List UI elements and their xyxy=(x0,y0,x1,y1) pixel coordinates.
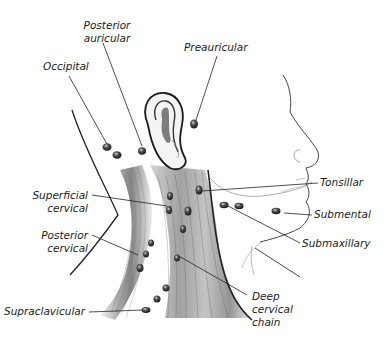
mouth-line xyxy=(296,178,305,180)
label-line: Tonsillar xyxy=(320,176,363,189)
node-deep-cervical-2 xyxy=(180,225,186,233)
label-line: auricular xyxy=(80,32,134,45)
label-line: Submaxillary xyxy=(302,237,371,250)
node-posterior-cervical-3 xyxy=(137,264,144,272)
node-deep-cervical-4 xyxy=(163,285,170,292)
node-supraclavicular xyxy=(142,307,151,313)
node-posterior-cervical-2 xyxy=(143,251,149,258)
label-line: cervical xyxy=(20,242,88,255)
label-posterior-cervical: Posterior cervical xyxy=(20,229,88,255)
node-superficial-cervical-1 xyxy=(167,192,173,200)
face-profile xyxy=(260,75,319,242)
node-submaxillary-2 xyxy=(235,203,244,209)
node-occipital-1 xyxy=(103,143,112,151)
throat-line-3 xyxy=(255,248,300,277)
node-deep-cervical-3 xyxy=(174,255,180,262)
node-submaxillary-1 xyxy=(220,202,229,208)
lip-line xyxy=(282,186,306,192)
label-superficial-cervical: Superficial cervical xyxy=(20,189,88,215)
label-submaxillary: Submaxillary xyxy=(302,237,371,250)
label-line: Posterior xyxy=(20,229,88,242)
node-posterior-cervical-1 xyxy=(148,240,154,247)
node-occipital-2 xyxy=(113,151,122,159)
label-supraclavicular: Supraclavicular xyxy=(4,305,85,318)
leader-preauricular xyxy=(196,56,217,120)
ear xyxy=(145,93,185,169)
node-preauricular xyxy=(190,120,198,129)
label-deep-cervical-chain: Deep cervical chain xyxy=(252,290,293,329)
label-line: Supraclavicular xyxy=(4,305,85,318)
node-posterior-auricular xyxy=(138,147,146,155)
label-submental: Submental xyxy=(314,208,371,221)
label-line: Superficial xyxy=(20,189,88,202)
node-submental xyxy=(272,208,281,214)
node-deep-cervical-5 xyxy=(154,296,161,303)
leader-submaxillary xyxy=(228,206,300,243)
node-tonsillar xyxy=(196,186,203,195)
label-preauricular: Preauricular xyxy=(184,41,248,54)
label-tonsillar: Tonsillar xyxy=(320,176,363,189)
label-line: Submental xyxy=(314,208,371,221)
label-line: Deep xyxy=(252,290,293,303)
node-deep-cervical-1 xyxy=(185,207,192,216)
leader-submental xyxy=(284,213,312,215)
label-line: Preauricular xyxy=(184,41,248,54)
label-occipital: Occipital xyxy=(43,60,89,73)
leader-occipital xyxy=(69,76,108,146)
label-posterior-auricular: Posterior auricular xyxy=(80,19,134,45)
label-line: Occipital xyxy=(43,60,89,73)
label-line: Posterior xyxy=(80,19,134,32)
nostril xyxy=(294,150,300,162)
leader-posterior-auricular xyxy=(103,43,142,146)
throat-line-2 xyxy=(251,246,254,275)
label-line: cervical xyxy=(252,303,293,316)
label-line: chain xyxy=(252,316,293,329)
label-line: cervical xyxy=(20,202,88,215)
node-superficial-cervical-2 xyxy=(166,206,172,214)
